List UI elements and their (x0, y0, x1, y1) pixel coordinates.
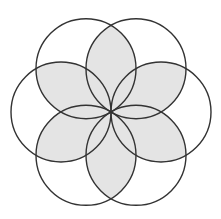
diagram-canvas (0, 0, 221, 219)
rosette-diagram (0, 0, 221, 219)
